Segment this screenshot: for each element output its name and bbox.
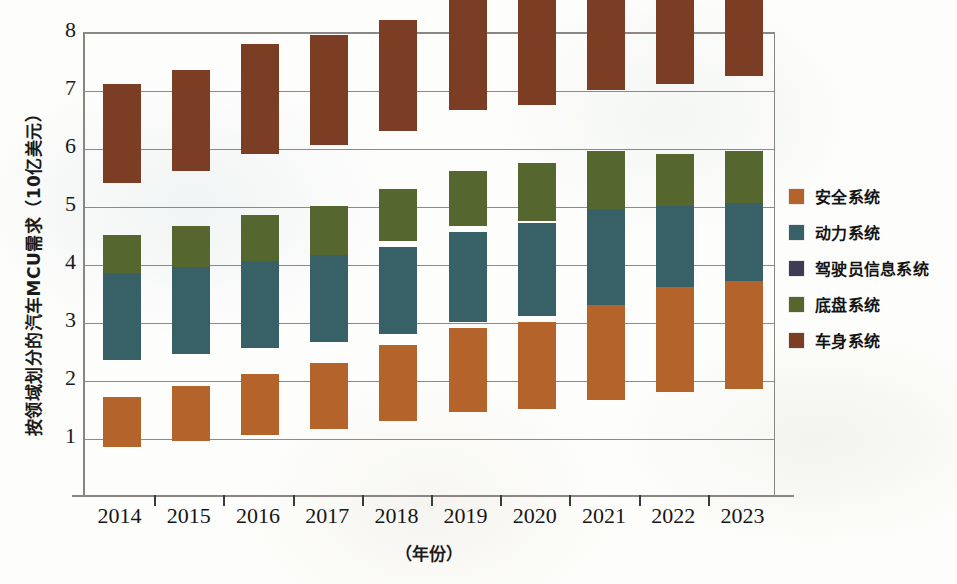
bar-2017[interactable] [310,145,348,496]
bar-segment-底盘系统-2019[interactable] [449,171,487,226]
y-tick-label: 3 [16,307,76,333]
legend-swatch-icon [789,261,804,276]
bar-segment-底盘系统-2017[interactable] [310,206,348,255]
bar-segment-车身系统-2018[interactable] [379,20,417,130]
bar-segment-安全系统-2019[interactable] [449,328,487,412]
bar-segment-车身系统-2019[interactable] [449,0,487,110]
bar-segment-动力系统-2019[interactable] [449,232,487,322]
bar-segment-动力系统-2018[interactable] [379,247,417,334]
bar-2014[interactable] [103,183,141,496]
bar-segment-动力系统-2021[interactable] [587,209,625,305]
legend-item-底盘系统[interactable]: 底盘系统 [789,286,954,322]
bar-segment-动力系统-2015[interactable] [172,267,210,354]
bar-segment-车身系统-2014[interactable] [103,84,141,183]
legend-label: 安全系统 [815,184,880,208]
stacked-bar-chart: 按领域划分的汽车MCU需求（10亿美元） 12345678 2014201520… [0,0,957,584]
legend-swatch-icon [789,297,804,312]
bar-segment-底盘系统-2016[interactable] [241,215,279,264]
bar-2022[interactable] [656,84,694,496]
legend-item-安全系统[interactable]: 安全系统 [789,178,954,214]
bar-2019[interactable] [449,110,487,496]
bar-segment-车身系统-2022[interactable] [656,0,694,84]
bar-segment-车身系统-2023[interactable] [725,0,763,76]
bar-segment-动力系统-2022[interactable] [656,206,694,299]
x-tick-label-2023: 2023 [697,503,787,529]
bar-2023[interactable] [725,76,763,497]
legend-swatch-icon [789,189,804,204]
bar-segment-安全系统-2017[interactable] [310,363,348,430]
bar-segment-车身系统-2016[interactable] [241,44,279,154]
bar-segment-动力系统-2014[interactable] [103,273,141,360]
bar-segment-安全系统-2021[interactable] [587,305,625,401]
legend-label: 车身系统 [815,328,880,352]
y-tick-label: 2 [16,365,76,391]
bar-segment-底盘系统-2018[interactable] [379,189,417,241]
x-axis-line [72,495,794,497]
legend-item-动力系统[interactable]: 动力系统 [789,214,954,250]
legend-label: 驾驶员信息系统 [815,256,929,280]
y-axis-tick-labels: 12345678 [14,0,76,520]
bar-segment-车身系统-2020[interactable] [518,0,556,105]
legend-item-驾驶员信息系统[interactable]: 驾驶员信息系统 [789,250,954,286]
bar-2016[interactable] [241,154,279,496]
bar-segment-底盘系统-2015[interactable] [172,226,210,272]
bar-segment-底盘系统-2021[interactable] [587,151,625,209]
bar-segment-车身系统-2017[interactable] [310,35,348,145]
y-tick-label: 8 [16,17,76,43]
bar-segment-安全系统-2014[interactable] [103,397,141,446]
bar-segment-安全系统-2023[interactable] [725,281,763,388]
bar-segment-底盘系统-2020[interactable] [518,163,556,221]
bar-segment-安全系统-2016[interactable] [241,374,279,435]
bar-segment-车身系统-2015[interactable] [172,70,210,172]
y-tick-label: 7 [16,75,76,101]
bar-segment-动力系统-2016[interactable] [241,261,279,348]
bar-segment-安全系统-2015[interactable] [172,386,210,441]
legend-swatch-icon [789,333,804,348]
bar-segment-动力系统-2017[interactable] [310,255,348,342]
y-tick-label: 4 [16,249,76,275]
bar-segment-底盘系统-2023[interactable] [725,151,763,203]
bar-2021[interactable] [587,90,625,496]
bar-2015[interactable] [172,171,210,496]
plot-area [83,32,775,496]
y-tick-label: 1 [16,423,76,449]
legend-swatch-icon [789,225,804,240]
legend: 安全系统动力系统驾驶员信息系统底盘系统车身系统 [789,178,954,358]
bar-segment-底盘系统-2022[interactable] [656,154,694,206]
legend-label: 底盘系统 [815,292,880,316]
y-tick-label: 6 [16,133,76,159]
bar-segment-安全系统-2018[interactable] [379,345,417,420]
bar-2020[interactable] [518,105,556,497]
bar-segment-动力系统-2020[interactable] [518,223,556,316]
legend-label: 动力系统 [815,220,880,244]
bar-segment-安全系统-2022[interactable] [656,287,694,391]
bar-segment-安全系统-2020[interactable] [518,322,556,409]
y-tick-label: 5 [16,191,76,217]
bar-2018[interactable] [379,131,417,496]
x-axis-title: （年份） [83,540,775,565]
bar-segment-车身系统-2021[interactable] [587,0,625,90]
legend-item-车身系统[interactable]: 车身系统 [789,322,954,358]
